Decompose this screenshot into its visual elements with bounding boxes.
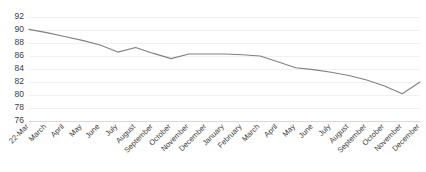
x-tick-label: May [280, 122, 297, 139]
y-tick-label: 90 [15, 24, 25, 34]
x-tick-label: May [67, 122, 84, 139]
x-axis-tick-labels: 22-MarMarchAprilMayJuneJulyAugustSeptemb… [7, 121, 422, 154]
x-tick-label: June [297, 122, 315, 140]
y-tick-label: 88 [15, 37, 25, 47]
y-tick-label: 78 [15, 102, 25, 112]
data-series-line [29, 29, 420, 93]
y-tick-label: 86 [15, 50, 25, 60]
y-tick-label: 80 [15, 89, 25, 99]
x-tick-label: April [49, 122, 66, 139]
line-chart: 767880828486889092 22-MarMarchAprilMayJu… [0, 0, 426, 172]
y-tick-label: 84 [15, 63, 25, 73]
x-tick-label: 22-Mar [7, 122, 31, 146]
x-tick-label: March [27, 122, 48, 143]
y-tick-label: 82 [15, 76, 25, 86]
y-tick-label: 92 [15, 11, 25, 21]
chart-canvas: 767880828486889092 22-MarMarchAprilMayJu… [0, 0, 426, 172]
y-axis-tick-labels: 767880828486889092 [15, 11, 25, 125]
gridlines [29, 18, 420, 122]
x-tick-label: April [262, 122, 279, 139]
x-tick-label: March [240, 122, 261, 143]
x-tick-label: June [83, 122, 101, 140]
